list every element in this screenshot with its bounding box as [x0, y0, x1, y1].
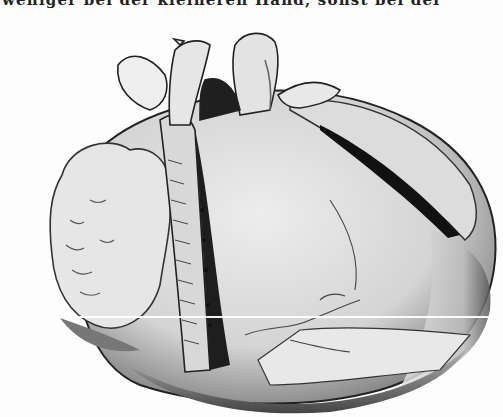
- scan-artifact-line: [55, 316, 490, 318]
- book-page: weniger bei der kleineren Hand, sonst be…: [0, 0, 503, 417]
- heart-illustration: [0, 0, 503, 417]
